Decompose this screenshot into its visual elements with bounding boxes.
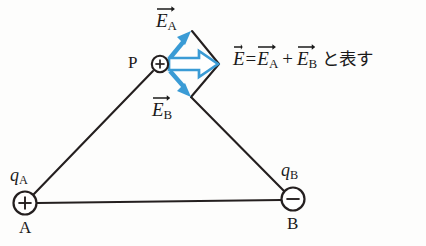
equation-lhs-E: E [233, 42, 245, 68]
vector-EB-base: E [152, 99, 164, 120]
point-A-charge-circle [14, 192, 37, 215]
field-vectors [169, 31, 218, 97]
line-A-to-B [37, 200, 281, 203]
vector-EA-arrow [170, 31, 191, 58]
equation-term1-EA: EA [257, 42, 278, 71]
charge-qA-base: q [10, 165, 19, 185]
physics-figure: EA EB P qA A qB B E = [0, 0, 426, 246]
vector-EA-base: E [156, 10, 168, 31]
vector-EB-subscript: B [164, 107, 173, 122]
equation-plus-sign: + [282, 48, 293, 69]
line-P-to-B [191, 97, 285, 192]
label-charge-qB: qB [281, 161, 298, 181]
point-P-charge-circle [152, 56, 168, 72]
point-B-charge-circle [282, 188, 305, 211]
equation-term1-subscript: A [269, 56, 278, 71]
equation-trailing-japanese-text: と表す [322, 49, 373, 69]
charge-qB-base: q [281, 160, 290, 180]
equation-lhs-base: E [233, 48, 245, 69]
equation-term1-base: E [257, 48, 269, 69]
charge-qB-subscript: B [290, 168, 298, 182]
label-vector-EA: EA [156, 4, 177, 33]
label-point-B: B [287, 215, 298, 232]
vector-EA-subscript: A [168, 18, 177, 33]
equation-resultant-field: E = EA + EB と表す [232, 42, 373, 71]
line-A-to-P [33, 71, 153, 195]
label-vector-EB: EB [152, 93, 172, 122]
equation-equals-sign: = [246, 48, 257, 69]
equation-term2-EB: EB [297, 42, 317, 71]
label-point-P: P [128, 54, 137, 71]
charge-qA-subscript: A [19, 173, 28, 187]
diagram-canvas [0, 0, 426, 246]
equation-term2-subscript: B [309, 56, 318, 71]
vector-EB-arrow [170, 71, 191, 97]
label-point-A: A [19, 219, 31, 236]
label-charge-qA: qA [10, 166, 28, 186]
equation-term2-base: E [297, 48, 309, 69]
